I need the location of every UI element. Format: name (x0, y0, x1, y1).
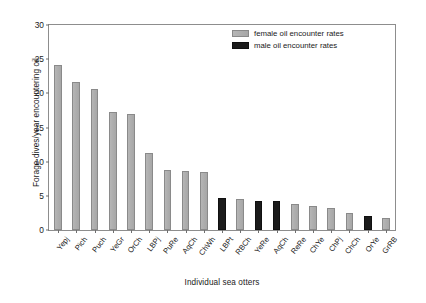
bar-slot: ReRe (291, 25, 299, 230)
legend-item: male oil encounter rates (232, 40, 344, 51)
bar-slot: LBPt (218, 25, 226, 230)
x-tick-mark (349, 230, 350, 233)
bar-slot: YeRe (255, 25, 263, 230)
y-tick-label: 15 (5, 123, 49, 133)
bar (236, 199, 244, 230)
x-tick-mark (95, 230, 96, 233)
x-tick-mark (331, 230, 332, 233)
x-axis-title: Individual sea otters (48, 278, 396, 287)
x-tick-mark (386, 230, 387, 233)
x-tick-mark (76, 230, 77, 233)
bar (72, 82, 80, 230)
y-tick-label: 30 (5, 20, 49, 30)
bar-slot: GrRB (382, 25, 390, 230)
legend-swatch (232, 30, 249, 37)
x-tick-mark (222, 230, 223, 233)
bar-slot: ChCh (346, 25, 354, 230)
x-tick-mark (295, 230, 296, 233)
x-tick-mark (167, 230, 168, 233)
y-tick-label: 25 (5, 54, 49, 64)
bar (109, 112, 117, 230)
y-tick-label: 20 (5, 88, 49, 98)
bar (327, 208, 335, 230)
bar (182, 171, 190, 230)
x-tick-mark (58, 230, 59, 233)
plot-area: 051015202530 YepjPichPuchYeGrOrChLBPjPuR… (48, 24, 396, 231)
x-tick-mark (313, 230, 314, 233)
bar-slot: Pich (72, 25, 80, 230)
bar (164, 170, 172, 230)
bar-slot: ChYe (309, 25, 317, 230)
bar (382, 218, 390, 230)
bar (255, 201, 263, 230)
x-tick-mark (186, 230, 187, 233)
bar-slot: LBPj (145, 25, 153, 230)
x-tick-mark (113, 230, 114, 233)
bar-slot: ChPj (327, 25, 335, 230)
x-tick-mark (258, 230, 259, 233)
bar-slot: Puch (91, 25, 99, 230)
bar-slot: AqCh (273, 25, 281, 230)
bar (54, 65, 62, 230)
bar-series: YepjPichPuchYeGrOrChLBPjPuReAqChChWhLBPt… (49, 25, 395, 230)
legend-label: female oil encounter rates (254, 29, 344, 38)
legend-swatch (232, 42, 249, 49)
bar (273, 201, 281, 230)
bar (364, 216, 372, 230)
bar-slot: OrCh (127, 25, 135, 230)
x-tick-mark (240, 230, 241, 233)
x-tick-mark (368, 230, 369, 233)
bar (346, 213, 354, 230)
bar (218, 198, 226, 230)
x-tick-mark (204, 230, 205, 233)
bar (309, 206, 317, 230)
x-tick-mark (149, 230, 150, 233)
legend-item: female oil encounter rates (232, 28, 344, 39)
y-tick-label: 5 (5, 191, 49, 201)
y-tick-label: 10 (5, 157, 49, 167)
bar-slot: RBCh (236, 25, 244, 230)
chart-legend: female oil encounter ratesmale oil encou… (232, 28, 344, 52)
x-tick-mark (277, 230, 278, 233)
bar-slot: YeGr (109, 25, 117, 230)
bar (291, 204, 299, 230)
legend-label: male oil encounter rates (254, 41, 337, 50)
bar-slot: Yepj (54, 25, 62, 230)
bar-slot: ChWh (200, 25, 208, 230)
y-tick-label: 0 (5, 225, 49, 235)
bar (127, 114, 135, 230)
x-tick-mark (131, 230, 132, 233)
bar-slot: PuRe (164, 25, 172, 230)
chart-figure: Forage dives/year encountering oil 05101… (0, 0, 426, 303)
bar-slot: AqCh (182, 25, 190, 230)
bar-slot: OrYe (364, 25, 372, 230)
bar (200, 172, 208, 230)
bar (145, 153, 153, 230)
bar (91, 89, 99, 230)
